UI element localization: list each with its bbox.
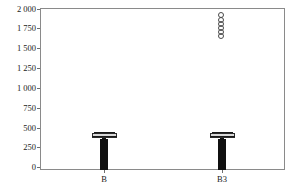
y-tick-label-1000: 1 000 bbox=[0, 84, 36, 93]
y-tick-label-750: 750 bbox=[0, 104, 36, 113]
y-tick-label-250: 250 bbox=[0, 143, 36, 152]
y-tick-label-500: 500 bbox=[0, 124, 36, 133]
y-tick-mark-2000 bbox=[37, 9, 40, 10]
x-tick-mark-b3 bbox=[222, 170, 223, 173]
y-tick-mark-750 bbox=[37, 108, 40, 109]
y-tick-label-1750: 1 750 bbox=[0, 24, 36, 33]
x-tick-label-b: B bbox=[84, 175, 124, 184]
y-tick-label-1500: 1 500 bbox=[0, 44, 36, 53]
x-tick-label-b3: B3 bbox=[202, 175, 242, 184]
outlier-point bbox=[218, 12, 224, 18]
whisker-line-b3 bbox=[220, 138, 224, 170]
plot-area bbox=[40, 8, 285, 170]
y-tick-mark-1000 bbox=[37, 88, 40, 89]
y-tick-label-2000: 2 000 bbox=[0, 5, 36, 14]
median-line-b3 bbox=[210, 136, 235, 137]
upper-cap-b3 bbox=[212, 132, 233, 133]
y-tick-mark-1750 bbox=[37, 28, 40, 29]
x-tick-mark-b bbox=[104, 170, 105, 173]
y-tick-mark-1250 bbox=[37, 68, 40, 69]
y-tick-label-0: 0 bbox=[0, 163, 36, 172]
median-line-b bbox=[92, 136, 117, 137]
y-tick-mark-1500 bbox=[37, 48, 40, 49]
y-tick-mark-250 bbox=[37, 147, 40, 148]
y-tick-mark-500 bbox=[37, 128, 40, 129]
upper-cap-b bbox=[94, 132, 115, 133]
whisker-line-b bbox=[102, 138, 106, 170]
y-tick-mark-0 bbox=[37, 167, 40, 168]
boxplot-chart: 2 000 1 750 1 500 1 250 1 000 750 500 25… bbox=[0, 0, 297, 193]
y-tick-label-1250: 1 250 bbox=[0, 64, 36, 73]
